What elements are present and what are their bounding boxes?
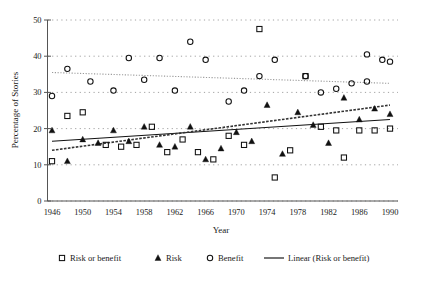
legend-label: Linear (Risk or benefit) [288, 253, 370, 263]
chart-background [0, 0, 436, 283]
legend-label: Risk or benefit [70, 253, 122, 263]
x-axis-title: Year [213, 225, 230, 235]
x-tick-label-1946: 1946 [44, 208, 61, 217]
y-tick-label-40: 40 [33, 52, 41, 61]
y-tick-label-30: 30 [33, 88, 41, 97]
y-tick-label-20: 20 [33, 125, 41, 134]
x-tick-label-1950: 1950 [74, 208, 91, 217]
y-tick-label-0: 0 [37, 197, 41, 206]
legend-label: Risk [166, 253, 182, 263]
x-tick-label-1962: 1962 [167, 208, 184, 217]
x-tick-label-1958: 1958 [136, 208, 153, 217]
x-tick-label-1970: 1970 [228, 208, 245, 217]
x-tick-label-1990: 1990 [382, 208, 399, 217]
y-tick-label-50: 50 [33, 16, 41, 25]
x-tick-label-1954: 1954 [105, 208, 123, 217]
y-axis-title: Percentage of Stories [10, 71, 20, 148]
x-tick-label-1982: 1982 [320, 208, 337, 217]
chart-canvas: 01020304050 1946195019541958196219661970… [0, 0, 436, 283]
scatter-chart: 01020304050 1946195019541958196219661970… [0, 0, 436, 283]
x-tick-label-1966: 1966 [197, 208, 214, 217]
y-tick-label-10: 10 [33, 161, 41, 170]
x-tick-label-1986: 1986 [351, 208, 368, 217]
x-tick-label-1978: 1978 [289, 208, 306, 217]
legend-label: Benefit [218, 253, 244, 263]
x-tick-label-1974: 1974 [259, 208, 277, 217]
